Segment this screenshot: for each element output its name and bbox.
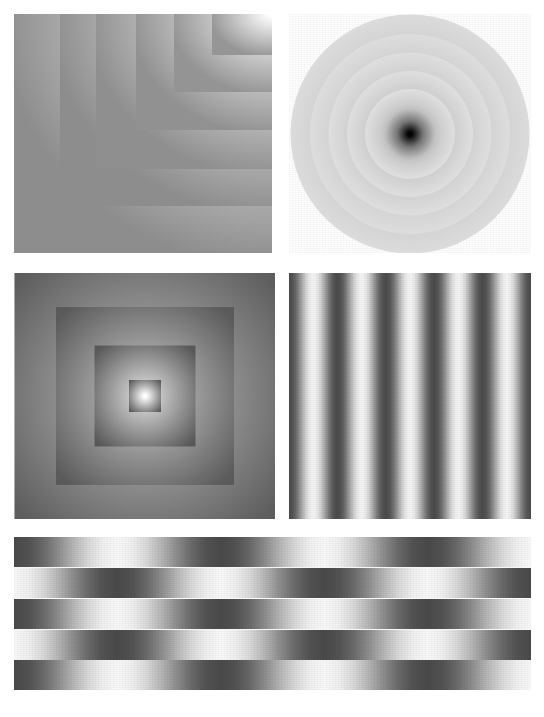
horizontal-band-2 (14, 599, 531, 629)
horizontal-band-3 (14, 630, 531, 660)
vertical-stripe-field (289, 273, 531, 519)
nested-square-3 (129, 380, 161, 412)
concentric-ring-5 (383, 107, 437, 161)
panel-concentric-circles (289, 14, 531, 253)
panel-horizontal-bands (14, 537, 531, 690)
panel-vertical-stripes (289, 273, 531, 519)
corner-square-layer-5 (212, 14, 272, 55)
figure-canvas (0, 0, 544, 717)
horizontal-band-4 (14, 660, 531, 690)
horizontal-band-0 (14, 537, 531, 567)
panel-nested-centered-squares (14, 273, 275, 519)
panel-corner-anchored-squares (14, 14, 272, 253)
horizontal-band-1 (14, 568, 531, 598)
